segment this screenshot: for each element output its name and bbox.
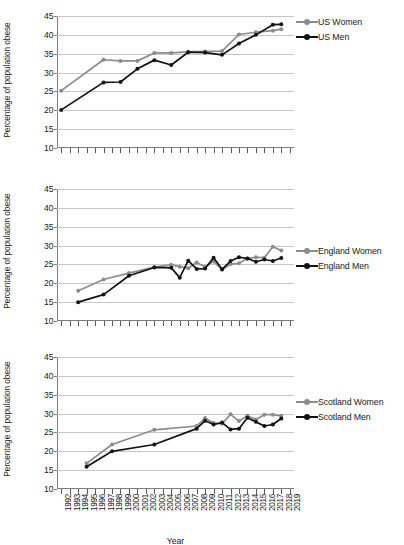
y-tick-label: 35 bbox=[44, 222, 54, 232]
series-line bbox=[87, 418, 282, 467]
data-point bbox=[152, 428, 156, 432]
data-point bbox=[59, 89, 63, 93]
x-tick-mark bbox=[112, 321, 113, 326]
data-point bbox=[237, 419, 241, 423]
x-tick-label: 1998 bbox=[115, 494, 124, 511]
data-point bbox=[262, 258, 266, 262]
x-tick-mark bbox=[188, 148, 189, 153]
series-lines-us bbox=[57, 16, 294, 148]
series-line bbox=[87, 414, 282, 463]
x-tick-mark bbox=[188, 321, 189, 326]
y-tick-label: 10 bbox=[44, 143, 54, 153]
x-tick-marks bbox=[57, 321, 294, 326]
y-tick-label: 20 bbox=[44, 446, 54, 456]
data-point bbox=[152, 443, 156, 447]
x-tick-mark bbox=[163, 321, 164, 326]
legend-item[interactable]: Scotland Men bbox=[296, 409, 404, 424]
legend-item[interactable]: US Men bbox=[296, 29, 404, 44]
chart-panel-scotland: Percentage of population obese 101520253… bbox=[0, 346, 404, 545]
y-tick-label: 15 bbox=[44, 297, 54, 307]
x-tick-label: 2017 bbox=[276, 494, 285, 511]
x-tick-mark bbox=[180, 321, 181, 326]
x-tick-mark bbox=[247, 321, 248, 326]
x-tick-mark bbox=[273, 148, 274, 153]
y-tick-label: 20 bbox=[44, 278, 54, 288]
data-point bbox=[152, 265, 156, 269]
data-point bbox=[271, 23, 275, 27]
data-point bbox=[271, 413, 275, 417]
x-tick-labels: 1992199319941995199619971998199920002001… bbox=[57, 494, 294, 534]
data-point bbox=[127, 274, 131, 278]
legend-item[interactable]: England Men bbox=[296, 258, 404, 273]
x-tick-mark bbox=[146, 148, 147, 153]
y-tick-label: 35 bbox=[44, 49, 54, 59]
x-tick-mark bbox=[205, 321, 206, 326]
x-tick-mark bbox=[120, 489, 121, 494]
series-lines-england bbox=[57, 189, 294, 321]
data-point bbox=[220, 267, 224, 271]
x-tick-mark bbox=[146, 321, 147, 326]
data-point bbox=[178, 276, 182, 280]
x-tick-label: 2013 bbox=[242, 494, 251, 511]
legend-label: England Women bbox=[318, 246, 382, 256]
y-axis-title: Percentage of population obese bbox=[2, 5, 12, 155]
x-tick-mark bbox=[95, 321, 96, 326]
x-tick-label: 2011 bbox=[225, 494, 234, 510]
data-point bbox=[203, 267, 207, 271]
x-tick-mark bbox=[146, 489, 147, 494]
data-point bbox=[237, 42, 241, 46]
x-tick-mark bbox=[264, 489, 265, 494]
y-tick-label: 25 bbox=[44, 427, 54, 437]
x-tick-mark bbox=[247, 148, 248, 153]
legend-label: US Men bbox=[318, 32, 349, 42]
y-tick-label: 30 bbox=[44, 68, 54, 78]
legend-us: US WomenUS Men bbox=[296, 14, 404, 44]
legend-item[interactable]: US Women bbox=[296, 14, 404, 29]
x-tick-mark bbox=[104, 489, 105, 494]
figure-root: Percentage of population obese 101520253… bbox=[0, 0, 404, 545]
y-tick-label: 25 bbox=[44, 259, 54, 269]
x-tick-mark bbox=[129, 321, 130, 326]
data-point bbox=[254, 260, 258, 264]
series-line bbox=[78, 257, 281, 302]
data-point bbox=[237, 255, 241, 259]
x-tick-marks bbox=[57, 148, 294, 153]
y-tick-label: 15 bbox=[44, 124, 54, 134]
x-tick-mark bbox=[197, 321, 198, 326]
y-tick-label: 45 bbox=[44, 184, 54, 194]
data-point bbox=[271, 245, 275, 249]
x-tick-mark bbox=[188, 489, 189, 494]
legend-item[interactable]: England Women bbox=[296, 243, 404, 258]
data-point bbox=[279, 27, 283, 31]
x-tick-mark bbox=[180, 148, 181, 153]
data-point bbox=[76, 289, 80, 293]
x-tick-mark bbox=[154, 321, 155, 326]
data-point bbox=[186, 266, 190, 270]
x-tick-mark bbox=[95, 489, 96, 494]
x-tick-mark bbox=[171, 148, 172, 153]
data-point bbox=[178, 265, 182, 269]
data-point bbox=[169, 266, 173, 270]
plot-area-scotland: 1015202530354045 bbox=[57, 357, 294, 489]
x-tick-mark bbox=[180, 489, 181, 494]
y-axis-title: Percentage of population obese bbox=[2, 344, 12, 494]
x-axis-title: Year bbox=[57, 536, 294, 545]
data-point bbox=[76, 300, 80, 304]
x-tick-mark bbox=[214, 321, 215, 326]
x-tick-mark bbox=[129, 148, 130, 153]
legend-item[interactable]: Scotland Women bbox=[296, 394, 404, 409]
x-tick-mark bbox=[171, 321, 172, 326]
data-point bbox=[279, 22, 283, 26]
x-tick-mark bbox=[231, 489, 232, 494]
x-tick-mark bbox=[264, 148, 265, 153]
data-point bbox=[135, 67, 139, 71]
x-tick-mark bbox=[222, 321, 223, 326]
x-tick-mark bbox=[231, 148, 232, 153]
y-tick-label: 30 bbox=[44, 409, 54, 419]
plot-area-england: 1015202530354045 bbox=[57, 189, 294, 321]
x-tick-mark bbox=[205, 148, 206, 153]
x-tick-mark bbox=[239, 321, 240, 326]
data-point bbox=[152, 51, 156, 55]
data-point bbox=[229, 412, 233, 416]
data-point bbox=[254, 255, 258, 259]
